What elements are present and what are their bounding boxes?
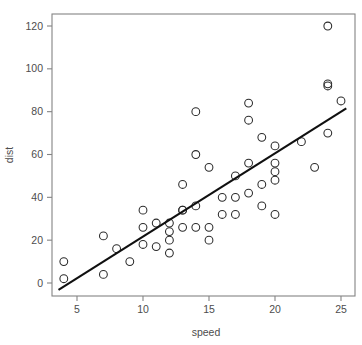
data-point [139,223,147,231]
x-tick-label: 15 [203,303,215,315]
y-tick-label: 20 [31,234,43,246]
data-point [139,241,147,249]
data-point [100,271,108,279]
data-points [60,22,345,283]
y-tick-label: 60 [31,148,43,160]
data-point [166,228,174,236]
y-tick-label: 40 [31,191,43,203]
y-tick-label: 100 [25,62,43,74]
data-point [192,108,200,116]
data-point [179,181,187,189]
data-point [271,159,279,167]
data-point [205,163,213,171]
data-point [166,249,174,257]
y-axis-title: dist [3,147,15,163]
regression-line-segment [59,108,347,289]
y-tick-label: 120 [25,20,43,32]
data-point [60,275,68,283]
data-point [100,232,108,240]
data-point [126,258,134,266]
data-point [245,99,253,107]
data-point [245,159,253,167]
data-point [245,189,253,197]
data-point [192,151,200,159]
data-point [271,142,279,150]
data-point [192,223,200,231]
data-point [258,202,266,210]
x-tick-label: 10 [137,303,149,315]
data-point [205,223,213,231]
data-point [139,206,147,214]
plot-frame [52,14,355,296]
data-point [258,133,266,141]
data-point [324,129,332,137]
x-tick-label: 20 [269,303,281,315]
data-point [218,193,226,201]
y-tick-label: 80 [31,105,43,117]
data-point [311,163,319,171]
data-point [60,258,68,266]
data-point [152,243,160,251]
x-tick-label: 5 [74,303,80,315]
data-point [232,211,240,219]
data-point [324,22,332,30]
data-point [271,211,279,219]
data-point [218,211,226,219]
data-point [258,181,266,189]
data-point [205,236,213,244]
data-point [166,236,174,244]
scatter-plot-figure: 510152025 020406080100120 speed dist [0,0,362,345]
plot-canvas: 510152025 020406080100120 speed dist [0,0,362,345]
y-tick-label: 0 [37,277,43,289]
data-point [245,116,253,124]
y-axis-ticks: 020406080100120 [25,20,52,289]
data-point [271,176,279,184]
data-point [337,97,345,105]
data-point [232,193,240,201]
data-point [179,223,187,231]
x-axis-title: speed [192,326,221,338]
x-axis-ticks: 510152025 [74,296,347,315]
data-point [271,168,279,176]
x-tick-label: 25 [335,303,347,315]
regression-line [59,108,347,289]
